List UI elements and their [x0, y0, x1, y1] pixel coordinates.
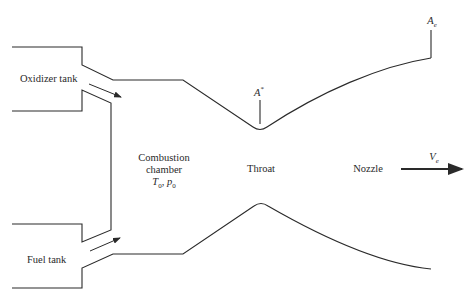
engine-diagram [0, 0, 473, 301]
throat-area-label: A* [254, 83, 264, 99]
lower-wall [12, 204, 431, 289]
upper-wall [12, 47, 431, 130]
combustion-label-line1: Combustion [138, 152, 189, 164]
exit-area-label: Ae [427, 15, 437, 31]
nozzle-label: Nozzle [353, 163, 383, 175]
combustion-label-line2: chamber [138, 164, 189, 176]
chamber-conditions: T0, p0 [138, 176, 189, 192]
oxidizer-tank-label: Oxidizer tank [20, 73, 77, 85]
chamber-left-wall [12, 90, 111, 242]
fuel-tank-label: Fuel tank [27, 254, 66, 266]
combustion-chamber-label: Combustion chamber T0, p0 [138, 152, 189, 192]
throat-label: Throat [247, 163, 275, 175]
exit-velocity-label: Ve [429, 151, 439, 167]
fuel-flow-arrow [90, 238, 120, 251]
